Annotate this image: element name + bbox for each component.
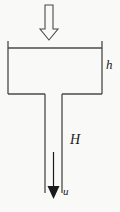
exit-velocity-label: u (63, 186, 69, 197)
tank-depth-label: h (106, 58, 113, 71)
arrow-down-icon (48, 186, 60, 199)
diagram-canvas (0, 0, 120, 212)
pipe-length-label: H (70, 133, 80, 147)
fluid-tank-diagram: h H u (0, 0, 120, 212)
block-arrow-down-icon (40, 5, 58, 40)
